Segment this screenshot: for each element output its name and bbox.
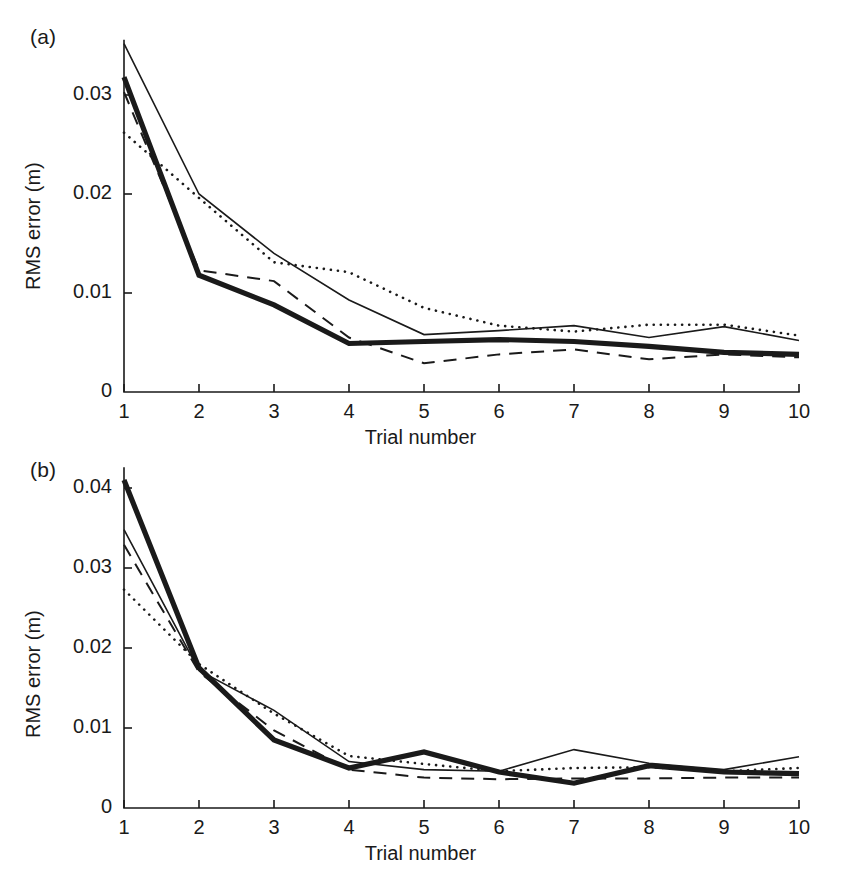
x-tick-label: 3 [249, 400, 299, 423]
x-tick-label: 5 [399, 816, 449, 839]
series-line-thin-solid [124, 530, 799, 772]
x-tick-label: 7 [549, 816, 599, 839]
x-tick-label: 6 [474, 400, 524, 423]
x-tick-label: 5 [399, 400, 449, 423]
x-tick-label: 1 [99, 816, 149, 839]
figure-rms-error-trials: (a) RMS error (m) Trial number 0.030.020… [0, 0, 841, 877]
x-tick-label: 2 [174, 816, 224, 839]
x-tick-label: 8 [624, 400, 674, 423]
y-tick-label: 0.03 [12, 82, 112, 105]
series-line-dotted [124, 590, 799, 772]
x-tick-label: 4 [324, 816, 374, 839]
x-tick-label: 9 [699, 400, 749, 423]
axis-spine [124, 468, 799, 808]
y-tick-label: 0.03 [12, 555, 112, 578]
x-tick-label: 9 [699, 816, 749, 839]
x-tick-label: 10 [774, 816, 824, 839]
panel-b-plot-area [0, 440, 841, 877]
series-line-dotted [124, 133, 799, 336]
x-tick-label: 1 [99, 400, 149, 423]
y-tick-label: 0 [12, 379, 112, 402]
x-tick-label: 3 [249, 816, 299, 839]
series-line-thin-solid [124, 44, 799, 341]
panel-a: (a) RMS error (m) Trial number 0.030.020… [0, 0, 841, 440]
panel-b: (b) RMS error (m) Trial number 0.040.030… [0, 440, 841, 877]
y-tick-label: 0.02 [12, 181, 112, 204]
panel-a-plot-area [0, 0, 841, 440]
x-tick-label: 2 [174, 400, 224, 423]
x-tick-label: 10 [774, 400, 824, 423]
series-line-dashed [124, 545, 799, 779]
y-tick-label: 0.02 [12, 635, 112, 658]
series-line-dashed [124, 92, 799, 363]
y-tick-label: 0.01 [12, 715, 112, 738]
x-tick-label: 6 [474, 816, 524, 839]
series-line-thick-solid [124, 480, 799, 783]
y-tick-label: 0.04 [12, 475, 112, 498]
x-tick-label: 8 [624, 816, 674, 839]
x-tick-label: 4 [324, 400, 374, 423]
x-tick-label: 7 [549, 400, 599, 423]
y-tick-label: 0.01 [12, 280, 112, 303]
y-tick-label: 0 [12, 795, 112, 818]
